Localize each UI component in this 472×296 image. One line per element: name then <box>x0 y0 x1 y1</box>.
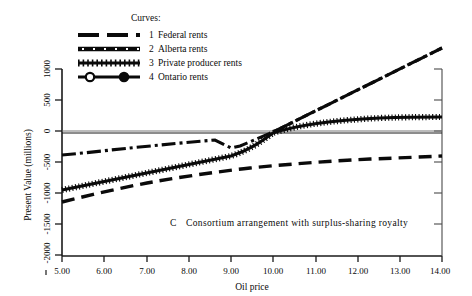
y-label-0: 0 <box>42 128 52 133</box>
legend-entry-ontario-rents[interactable]: 4 Ontario rents <box>78 72 208 82</box>
curve-private-producer-hatching <box>62 117 442 190</box>
y-axis-ticks <box>55 69 62 255</box>
legend-entry-alberta-rents[interactable]: 2 Alberta rents <box>78 44 208 54</box>
chart-figure: 1000 500 0 -500 -1000 -1500 -2000 Presen… <box>0 0 472 296</box>
y-label-m2000: -2000 <box>42 242 52 263</box>
legend-number-4: 4 <box>149 72 154 82</box>
legend-number-3: 3 <box>149 58 154 68</box>
y-label-1000: 1000 <box>42 60 52 79</box>
y-axis-title: Present Value (millions) <box>23 129 34 221</box>
y-label-m1500: -1500 <box>42 213 52 234</box>
x-label-13: 13.00 <box>390 266 411 276</box>
legend-title: Curves: <box>131 13 161 23</box>
caption-letter: C <box>170 218 177 228</box>
y-tick-labels: 1000 500 0 -500 -1000 -1500 -2000 <box>42 60 52 264</box>
data-curves <box>62 48 442 202</box>
legend-label-alberta-rents: Alberta rents <box>158 44 208 54</box>
right-axis-ticks <box>434 69 442 224</box>
chart-caption: C Consortium arrangement with surplus-sh… <box>170 218 408 228</box>
legend-entry-federal-rents[interactable]: 1 Federal rents <box>78 30 208 40</box>
x-label-14: 14.00 <box>430 266 451 276</box>
x-axis-ticks <box>62 256 442 262</box>
legend-label-ontario-rents: Ontario rents <box>158 72 208 82</box>
x-label-8: 8.00 <box>181 266 197 276</box>
x-label-5: 5.00 <box>54 266 70 276</box>
legend-number-2: 2 <box>149 44 154 54</box>
x-label-9: 9.00 <box>223 266 239 276</box>
legend: Curves: 1 Federal rents 2 Alberta rents … <box>78 13 242 82</box>
x-axis-title: Oil price <box>235 282 269 292</box>
legend-label-private-producer-rents: Private producer rents <box>158 58 242 68</box>
x-label-7: 7.00 <box>139 266 155 276</box>
caption-body: Consortium arrangement with surplus-shar… <box>186 218 408 228</box>
legend-number-1: 1 <box>149 30 154 40</box>
legend-marker-ontario-filled <box>120 73 128 81</box>
chart-canvas: 1000 500 0 -500 -1000 -1500 -2000 Presen… <box>0 0 472 296</box>
legend-label-federal-rents: Federal rents <box>158 30 208 40</box>
y-label-500: 500 <box>42 93 52 107</box>
x-label-10: 10.00 <box>263 266 284 276</box>
y-label-m1000: -1000 <box>42 182 52 203</box>
x-label-6: 6.00 <box>96 266 112 276</box>
legend-marker-ontario-open <box>86 73 94 81</box>
x-tick-labels: 5.00 6.00 7.00 8.00 9.00 10.00 11.00 12.… <box>54 266 451 276</box>
x-label-11: 11.00 <box>306 266 326 276</box>
legend-entry-private-producer-rents[interactable]: 3 Private producer rents <box>78 58 242 68</box>
y-label-m500: -500 <box>42 153 52 170</box>
x-label-12: 12.00 <box>348 266 369 276</box>
